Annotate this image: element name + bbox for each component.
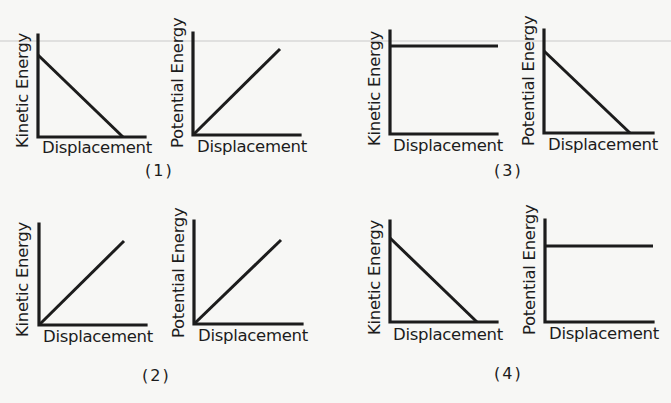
panel-4-ke-axes [390, 221, 497, 322]
panel-2-pe-xlabel: Displacement [198, 328, 308, 345]
panel-2-ke-ylabel: Kinetic Energy [15, 222, 32, 337]
panel-1-ke-axes [38, 35, 145, 137]
panel-1-pe-ylabel: Potential Energy [170, 18, 187, 149]
panel-3-pe-axes [544, 30, 653, 133]
panel-2-ke-xlabel: Displacement [43, 329, 153, 346]
plots-group [38, 30, 653, 325]
panel-1-caption: (1) [145, 163, 174, 179]
panel-1-pe-xlabel: Displacement [197, 139, 307, 156]
panel-4-pe-xlabel: Displacement [549, 326, 659, 343]
panel-3-pe-decreasing-line [544, 51, 630, 133]
panel-1-ke-ylabel: Kinetic Energy [15, 33, 32, 148]
panel-4-ke-decreasing-line [390, 238, 477, 322]
panel-3-pe-xlabel: Displacement [548, 137, 658, 154]
panel-2-pe-ylabel: Potential Energy [171, 208, 188, 339]
panel-4-caption: (4) [494, 366, 523, 382]
panel-2-pe-increasing-line [194, 240, 281, 324]
panel-3-ke-ylabel: Kinetic Energy [367, 31, 384, 146]
panel-2-caption: (2) [142, 368, 171, 384]
panel-3-ke-xlabel: Displacement [393, 138, 503, 155]
panel-4-pe-ylabel: Potential Energy [522, 205, 539, 336]
panel-1-ke-decreasing-line [38, 55, 123, 137]
panel-2-ke-increasing-line [39, 241, 124, 325]
panel-1-ke-xlabel: Displacement [42, 140, 152, 157]
panel-3-pe-ylabel: Potential Energy [521, 16, 538, 147]
panel-1-pe-increasing-line [193, 49, 280, 135]
panel-4-ke-xlabel: Displacement [393, 327, 503, 344]
panel-4-pe-axes [545, 220, 653, 322]
panel-4-ke-ylabel: Kinetic Energy [367, 220, 384, 335]
energy-graphs-figure: Kinetic Energy Displacement Potential En… [0, 0, 671, 403]
panel-3-caption: (3) [494, 163, 523, 179]
